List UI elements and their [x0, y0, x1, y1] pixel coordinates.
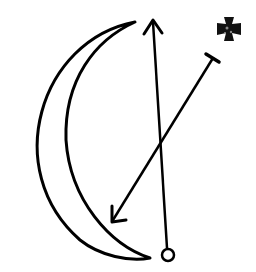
diagram-svg	[0, 0, 256, 272]
diagonal-arrow	[112, 54, 219, 222]
crescent-moon	[37, 22, 150, 259]
cross-icon	[217, 17, 241, 41]
circle-tail-icon	[162, 249, 174, 261]
vertical-arrow	[144, 20, 174, 261]
diagram-canvas	[0, 0, 256, 272]
